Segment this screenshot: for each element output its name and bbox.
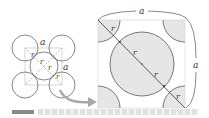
left-a-right-label: a — [63, 62, 68, 72]
left-r-label: r — [48, 64, 52, 72]
caption-text-cropped — [38, 109, 198, 115]
right-cross-section — [76, 0, 207, 118]
left-a-top-label: a — [40, 37, 45, 47]
left-r-label: r — [56, 73, 60, 81]
curved-arrow — [60, 90, 90, 102]
right-a-top-label: a — [139, 6, 144, 16]
caption-marker — [12, 110, 34, 114]
arrow-head-icon — [88, 97, 97, 107]
right-a-side-label: a — [193, 60, 198, 70]
left-r-label: r — [31, 51, 35, 59]
bcc-figure: a a r r r r r r r r a a — [0, 0, 209, 118]
left-r-label: r — [40, 58, 44, 66]
